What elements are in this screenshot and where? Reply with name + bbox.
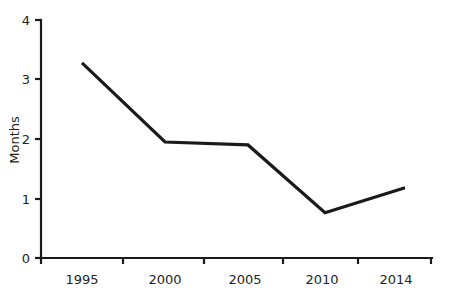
x-tick-label-1995: 1995	[65, 272, 98, 287]
x-tick-label-2005: 2005	[228, 272, 261, 287]
y-tick-label-3: 3	[22, 72, 30, 87]
y-tick-label-4: 4	[22, 13, 30, 28]
x-tick-label-2010: 2010	[305, 272, 338, 287]
y-tick-label-0: 0	[22, 251, 30, 266]
y-tick-label-2: 2	[22, 132, 30, 147]
y-axis-title: Months	[7, 116, 22, 164]
x-tick-label-2014: 2014	[379, 272, 412, 287]
x-tick-label-2000: 2000	[148, 272, 181, 287]
chart-canvas: 4 3 2 1 0 Months 1995 2000 2005 2010 201…	[0, 0, 455, 301]
line-chart: 4 3 2 1 0 Months 1995 2000 2005 2010 201…	[0, 0, 455, 301]
chart-background	[0, 0, 455, 301]
y-tick-label-1: 1	[22, 192, 30, 207]
